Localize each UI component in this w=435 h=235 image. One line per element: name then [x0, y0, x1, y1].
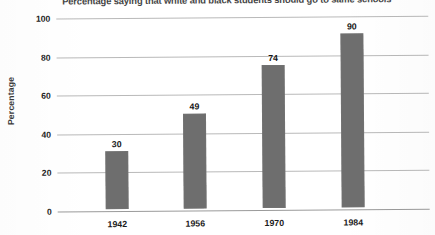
y-tick-label-20: 20 [42, 168, 52, 178]
y-tick-label-80: 80 [41, 52, 51, 62]
bar-value-1984: 90 [347, 22, 357, 32]
x-tick-label-1956: 1956 [185, 218, 205, 228]
gridline-40: 40 [57, 132, 429, 136]
chart-canvas: Percentage saying that white and black s… [0, 0, 435, 235]
bar-value-1942: 30 [112, 139, 122, 149]
x-tick-label-1984: 1984 [343, 217, 363, 227]
bar-value-1970: 74 [268, 53, 278, 63]
x-axis-baseline: 0 [58, 209, 430, 213]
plot-area: 100 80 60 40 20 0 30 1942 49 1956 74 197… [56, 16, 429, 212]
gridline-100: 100 [56, 16, 428, 20]
chart-title: Percentage saying that white and black s… [62, 0, 430, 7]
y-tick-label-0: 0 [47, 207, 52, 217]
bar-1942[interactable]: 30 1942 [105, 151, 128, 209]
bar-1970[interactable]: 74 1970 [262, 65, 286, 208]
gridline-60: 60 [57, 93, 429, 97]
bar-1956[interactable]: 49 1956 [183, 114, 207, 209]
y-tick-label-60: 60 [41, 91, 51, 101]
y-tick-label-100: 100 [36, 14, 50, 24]
bar-1984[interactable]: 90 1984 [340, 34, 364, 208]
bar-value-1956: 49 [189, 102, 199, 112]
x-tick-label-1970: 1970 [264, 218, 284, 228]
gridline-80: 80 [57, 54, 429, 58]
y-tick-label-40: 40 [42, 129, 52, 139]
y-axis-title: Percentage [6, 59, 17, 143]
x-tick-label-1942: 1942 [107, 219, 127, 229]
